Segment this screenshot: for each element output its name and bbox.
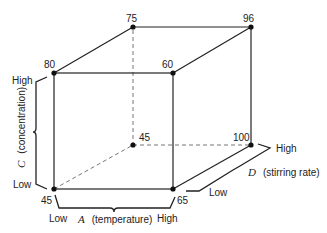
a-axis-name: (temperature) bbox=[92, 214, 153, 225]
vertex-point bbox=[130, 142, 135, 147]
edge-top-left-depth bbox=[54, 27, 133, 73]
c-axis-brace bbox=[33, 77, 47, 189]
d-axis-low-label: Low bbox=[209, 187, 228, 198]
vertex-value-back-bottom-right: 100 bbox=[233, 132, 250, 143]
front-face bbox=[54, 73, 173, 189]
c-axis-name: (concentration) bbox=[16, 87, 27, 154]
edge-top-right-depth bbox=[173, 27, 251, 73]
vertex-point bbox=[248, 24, 253, 29]
vertex-value-back-top-left: 75 bbox=[126, 13, 138, 24]
vertex-point bbox=[51, 186, 56, 191]
cube-diagram: 80 60 75 96 45 100 45 65 High Low C (con… bbox=[0, 0, 327, 233]
vertex-value-back-top-right: 96 bbox=[243, 13, 255, 24]
c-axis-high-label: High bbox=[12, 75, 33, 86]
d-axis-title: D (stirring rate) bbox=[247, 162, 320, 179]
vertex-point bbox=[248, 142, 253, 147]
vertex-value-front-top-right: 60 bbox=[162, 59, 174, 70]
vertex-value-front-bottom-right: 65 bbox=[177, 195, 189, 206]
vertex-point bbox=[51, 70, 56, 75]
vertex-point bbox=[170, 70, 175, 75]
svg-text:C (concentration): C (concentration) bbox=[11, 87, 28, 168]
c-axis-low-label: Low bbox=[13, 179, 32, 190]
d-axis-letter: D bbox=[247, 166, 256, 178]
a-axis-high-label: High bbox=[157, 213, 178, 224]
vertex-value-front-bottom-left: 45 bbox=[41, 195, 53, 206]
vertex-value-back-bottom-left: 45 bbox=[139, 132, 151, 143]
vertex-value-front-top-left: 80 bbox=[44, 59, 56, 70]
d-axis-high-label: High bbox=[276, 143, 297, 154]
d-axis-name: (stirring rate) bbox=[263, 167, 320, 178]
c-axis-letter: C bbox=[15, 160, 27, 168]
a-axis-letter: A bbox=[77, 213, 85, 225]
a-axis-low-label: Low bbox=[49, 213, 68, 224]
hidden-edge-bottom-left-depth bbox=[54, 145, 133, 189]
a-axis-brace bbox=[55, 195, 175, 212]
vertex-point bbox=[130, 24, 135, 29]
vertex-point bbox=[170, 186, 175, 191]
c-axis-title: C (concentration) bbox=[11, 87, 28, 168]
